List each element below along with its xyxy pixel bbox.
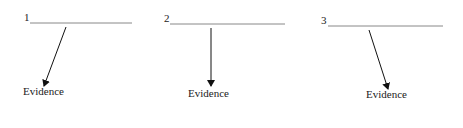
item-number-1: 1 <box>24 12 30 23</box>
evidence-label-2: Evidence <box>188 88 229 99</box>
arrow-3 <box>369 30 388 89</box>
evidence-label-3: Evidence <box>366 89 407 100</box>
evidence-label-1: Evidence <box>23 86 64 97</box>
diagram-lines <box>0 0 463 128</box>
item-number-3: 3 <box>321 15 327 26</box>
item-number-2: 2 <box>164 13 170 24</box>
arrow-1 <box>44 27 66 86</box>
